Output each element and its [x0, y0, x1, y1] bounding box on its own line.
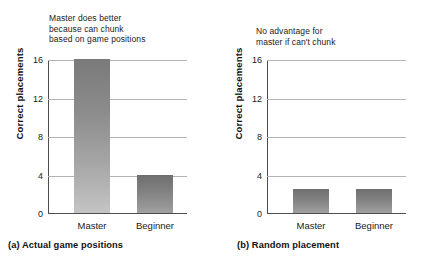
- chart-b-plot-area: 16 12 8 4 0 Master Beginner: [267, 60, 406, 214]
- chart-a-annotation: Master does better because can chunk bas…: [49, 13, 145, 45]
- chart-a-plot-area: 16 12 8 4 0 Master Beginner: [48, 60, 187, 214]
- chart-a-gridline-8: [48, 137, 187, 138]
- figure-two-bar-charts: Master does better because can chunk bas…: [0, 0, 431, 266]
- chart-b-gridline-4: [267, 176, 406, 177]
- chart-b-xtick-master: Master: [296, 220, 325, 231]
- chart-a-ytick-12: 12: [33, 94, 43, 104]
- chart-b-ytick-8: 8: [257, 132, 262, 142]
- chart-a-ytick-8: 8: [38, 132, 43, 142]
- chart-a-bar-beginner: [137, 175, 173, 214]
- chart-b-gridline-8: [267, 137, 406, 138]
- chart-b-gridline-12: [267, 99, 406, 100]
- chart-b-bar-master: [293, 189, 329, 213]
- chart-a-gridline-12: [48, 99, 187, 100]
- chart-b-gridline-16: [267, 60, 406, 61]
- chart-b-ytick-16: 16: [252, 55, 262, 65]
- chart-a-gridline-16: [48, 60, 187, 61]
- chart-b-caption: (b) Random placement: [237, 240, 339, 250]
- chart-b-bar-beginner: [356, 189, 392, 213]
- chart-a-ytick-16: 16: [33, 55, 43, 65]
- chart-b-xtick-beginner: Beginner: [355, 220, 393, 231]
- chart-a-ytick-0: 0: [38, 209, 43, 219]
- chart-a-y-axis-label: Correct placements: [14, 41, 25, 146]
- chart-b-ytick-12: 12: [252, 94, 262, 104]
- chart-panel-b: No advantage for master if can't chunk C…: [216, 0, 431, 266]
- chart-panel-a: Master does better because can chunk bas…: [0, 0, 215, 266]
- chart-b-ytick-4: 4: [257, 171, 262, 181]
- chart-a-bar-master: [74, 59, 110, 213]
- chart-a-caption: (a) Actual game positions: [8, 240, 123, 250]
- chart-a-xtick-beginner: Beginner: [136, 220, 174, 231]
- chart-b-ytick-0: 0: [257, 209, 262, 219]
- chart-a-ytick-4: 4: [38, 171, 43, 181]
- chart-b-y-axis-label: Correct placements: [233, 41, 244, 146]
- chart-a-xtick-master: Master: [77, 220, 106, 231]
- chart-b-annotation: No advantage for master if can't chunk: [256, 26, 335, 47]
